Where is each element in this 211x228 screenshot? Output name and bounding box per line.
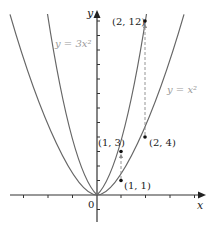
point-label-1-3: (1, 3) [98,137,125,148]
point-label-2-4: (2, 4) [149,137,176,148]
curve-label-x-squared: y = x² [166,84,197,95]
graph-canvas: y x 0 y = 3x² y = x² (1, 1) (1, 3) (2, 4… [0,0,211,228]
point-2-4 [143,135,147,139]
y-axis-arrow-icon [94,10,101,18]
point-1-3 [119,150,123,154]
point-label-1-1: (1, 1) [124,180,151,191]
x-axis-label: x [197,199,204,212]
x-axis-arrow-icon [198,192,206,199]
y-axis-label: y [86,7,94,20]
y-axis [94,10,101,222]
origin-label: 0 [88,199,94,210]
point-1-1 [119,179,123,183]
point-label-2-12: (2, 12) [112,16,145,27]
curve-label-3x-squared: y = 3x² [54,38,91,49]
x-axis [10,192,206,199]
